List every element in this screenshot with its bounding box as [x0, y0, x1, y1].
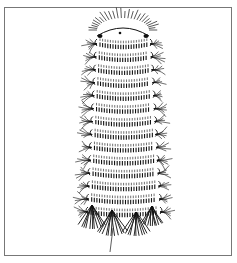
- worm-bristle-tufts: [73, 39, 175, 219]
- worm-body-segments: [91, 38, 156, 217]
- worm-illustration: [0, 0, 237, 263]
- worm-head: [88, 8, 158, 38]
- worm-tail-tufts: [78, 205, 163, 236]
